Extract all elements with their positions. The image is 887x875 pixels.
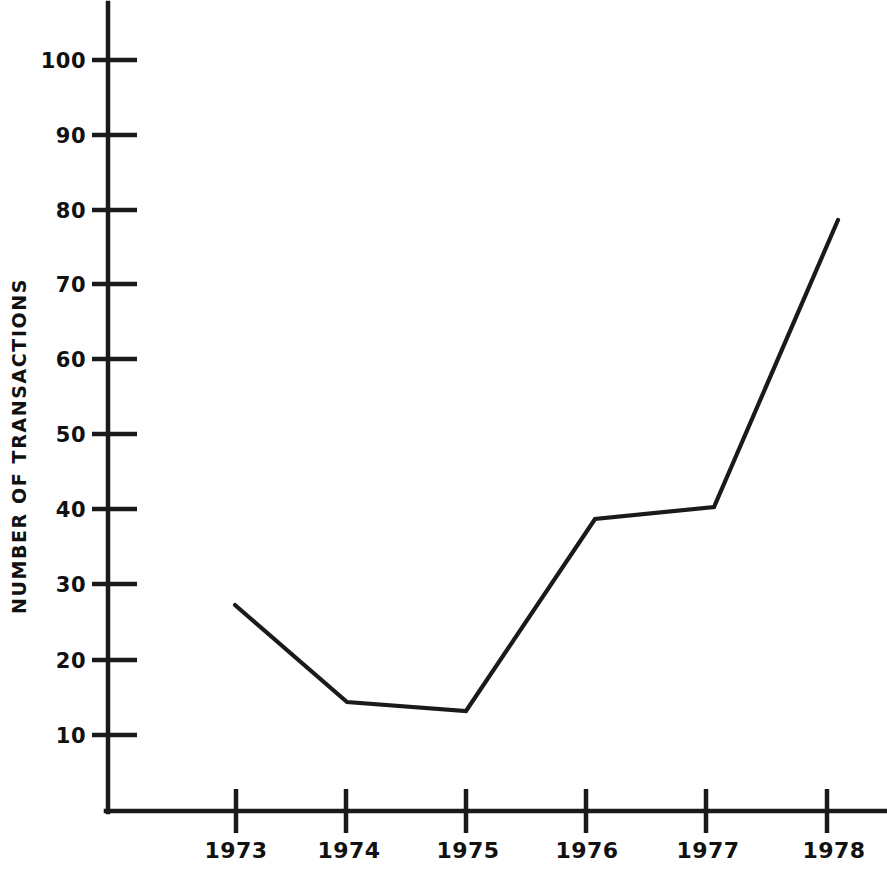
x-tick-label-1974: 1974 (317, 838, 380, 863)
x-tick-label-1973: 1973 (204, 838, 267, 863)
x-tick-label-1977: 1977 (676, 838, 739, 863)
y-tick-label-40: 40 (56, 498, 86, 522)
y-tick-label-100: 100 (41, 49, 86, 73)
x-axis-tick-labels: 1973 1974 1975 1976 1977 1978 (204, 838, 865, 863)
y-axis-title: NUMBER OF TRANSACTIONS (8, 278, 30, 614)
y-tick-label-30: 30 (56, 573, 86, 597)
y-tick-label-90: 90 (56, 124, 86, 148)
y-tick-label-50: 50 (56, 423, 86, 447)
line-chart-figure: 100 90 80 70 60 50 40 30 20 10 1973 1974… (0, 0, 887, 875)
y-tick-label-20: 20 (56, 649, 86, 673)
y-axis-ticks (92, 60, 137, 735)
chart-canvas: 100 90 80 70 60 50 40 30 20 10 1973 1974… (0, 0, 887, 875)
x-tick-label-1976: 1976 (555, 838, 618, 863)
y-tick-label-80: 80 (56, 199, 86, 223)
y-tick-label-70: 70 (56, 273, 86, 297)
data-series-line (235, 220, 838, 711)
x-tick-label-1975: 1975 (436, 838, 499, 863)
axis-group (106, 3, 887, 812)
y-axis-tick-labels: 100 90 80 70 60 50 40 30 20 10 (41, 49, 86, 748)
y-tick-label-10: 10 (56, 724, 86, 748)
x-tick-label-1978: 1978 (802, 838, 865, 863)
y-tick-label-60: 60 (56, 348, 86, 372)
